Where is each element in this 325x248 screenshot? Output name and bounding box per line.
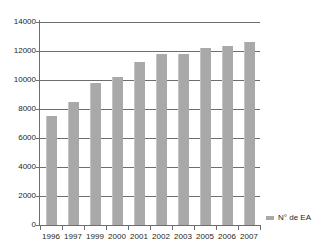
bar-2006: [222, 46, 233, 225]
x-tick-mark-5: [150, 226, 151, 230]
bar-2001: [134, 62, 145, 225]
x-tick-mark-1: [62, 226, 63, 230]
plot-area: [40, 22, 260, 225]
bar-2007: [244, 42, 255, 225]
x-tick-mark-8: [216, 226, 217, 230]
legend-swatch-no-de-ea: [266, 216, 274, 220]
x-tick-mark-4: [128, 226, 129, 230]
y-tick-label-6000: 6000: [0, 134, 36, 142]
bars-layer: [40, 22, 260, 225]
bar-1996: [46, 116, 57, 225]
legend: N° de EA: [266, 213, 311, 222]
x-tick-mark-10: [260, 226, 261, 230]
y-tick-label-8000: 8000: [0, 105, 36, 113]
x-tick-mark-9: [238, 226, 239, 230]
y-tick-label-14000: 14000: [0, 18, 36, 26]
x-tick-label-2007: 2007: [234, 232, 264, 241]
bar-chart-figure: 02000400060008000100001200014000 1996199…: [0, 0, 325, 248]
bar-2003: [178, 54, 189, 225]
y-tick-label-0: 0: [0, 221, 36, 229]
legend-label-no-de-ea: N° de EA: [278, 213, 311, 222]
y-tick-label-12000: 12000: [0, 47, 36, 55]
bar-1997: [68, 102, 79, 225]
bar-2002: [156, 54, 167, 225]
bar-2005: [200, 48, 211, 225]
y-tick-label-10000: 10000: [0, 76, 36, 84]
x-tick-mark-6: [172, 226, 173, 230]
x-tick-mark-0: [40, 226, 41, 230]
x-tick-mark-2: [84, 226, 85, 230]
y-tick-label-4000: 4000: [0, 163, 36, 171]
y-tick-label-2000: 2000: [0, 192, 36, 200]
bar-1999: [90, 83, 101, 225]
x-tick-mark-7: [194, 226, 195, 230]
bar-2000: [112, 77, 123, 225]
x-tick-mark-3: [106, 226, 107, 230]
